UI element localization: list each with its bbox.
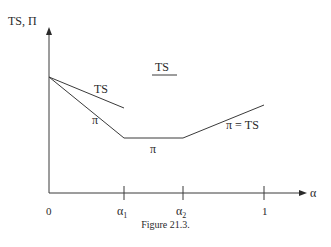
- x-tick-label-1: 1: [262, 206, 268, 217]
- x-tick-label-alpha2: α2: [176, 205, 186, 220]
- x-axis-label: α: [310, 187, 316, 199]
- y-axis-label: TS, Π: [8, 15, 37, 27]
- legend-label-ts: TS: [155, 61, 169, 73]
- x-axis-arrow-icon: [299, 190, 307, 196]
- figure-caption: Figure 21.3.: [0, 219, 331, 230]
- curve-label-pi: π: [92, 114, 98, 126]
- x-tick-label-alpha1: α1: [117, 205, 127, 220]
- y-axis-arrow-icon: [46, 27, 52, 35]
- curve-label-pi-equals-ts: π = TS: [226, 119, 259, 131]
- curve-label-ts: TS: [94, 83, 108, 95]
- tick-text: 1: [262, 205, 268, 217]
- tick-text: 0: [46, 205, 52, 217]
- ts-line: [49, 77, 124, 108]
- curve-label-pi-flat: π: [150, 143, 156, 155]
- x-tick-label-0: 0: [46, 206, 52, 217]
